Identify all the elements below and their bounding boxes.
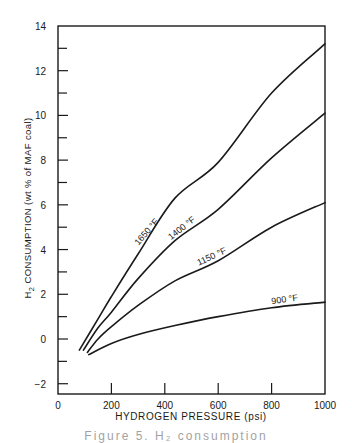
- x-tick-label: 1000: [314, 400, 337, 411]
- x-tick-label: 800: [263, 400, 280, 411]
- y-tick-label: 0: [40, 334, 46, 345]
- y-tick-label: 6: [40, 200, 46, 211]
- x-tick-label: 400: [156, 400, 173, 411]
- y-tick-label: 2: [40, 289, 46, 300]
- curve-1400f: [83, 113, 325, 350]
- y-tick-label: 10: [35, 110, 47, 121]
- curve-label: 1650 °F: [132, 216, 161, 247]
- curve-1650f: [79, 44, 325, 350]
- y-tick-label: 12: [35, 66, 47, 77]
- y-tick-label: 14: [35, 21, 47, 32]
- data-curves: [79, 44, 325, 355]
- x-tick-label: 200: [103, 400, 120, 411]
- x-tick-label: 0: [55, 400, 61, 411]
- y-tick-label: 4: [40, 245, 46, 256]
- y-axis-label: H2 CONSUMPTION (wt % of MAF coal): [22, 117, 36, 298]
- x-axis-label: HYDROGEN PRESSURE (psi): [115, 411, 267, 422]
- axis-ticks: −20246810121402004006008001000: [35, 21, 337, 411]
- curve-label: 900 °F: [271, 292, 299, 306]
- figure-caption: Figure 5. H₂ consumption: [0, 429, 352, 443]
- y-tick-label: 8: [40, 155, 46, 166]
- curve-900f: [89, 302, 325, 355]
- y-tick-label: −2: [35, 379, 47, 390]
- x-tick-label: 600: [210, 400, 227, 411]
